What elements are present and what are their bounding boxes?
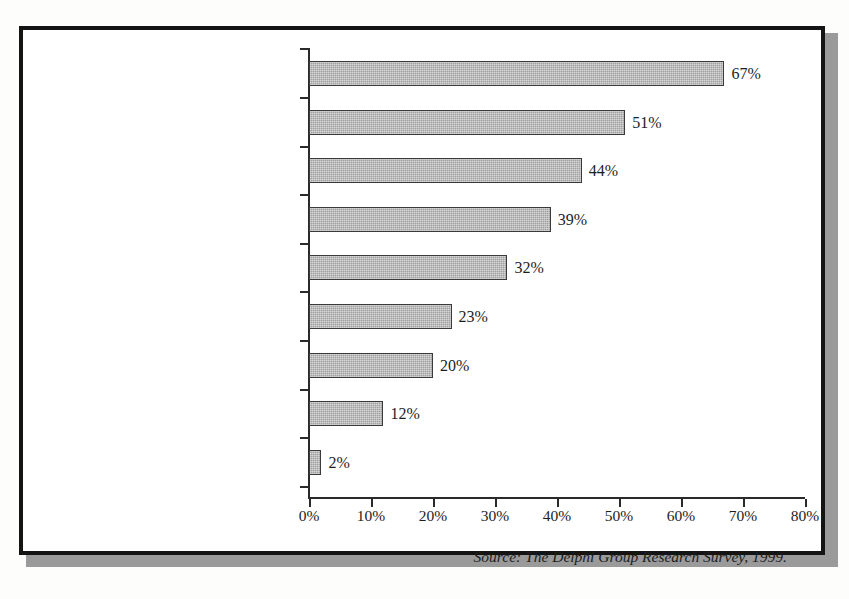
y-axis-tick [300,437,309,439]
y-axis-tick [300,486,309,488]
y-axis-tick [300,340,309,342]
y-axis-tick [300,194,309,196]
bar-value-label: 39% [551,207,587,232]
x-axis-tick [743,499,745,507]
figure-frame: Databases and knowledgebases67%Document … [19,26,825,555]
x-axis-tick-label: 80% [775,507,835,525]
x-axis-tick-label: 50% [589,507,649,525]
bar [309,304,452,329]
bar [309,353,433,378]
bar [309,255,507,280]
bar [309,61,724,86]
x-axis-tick [495,499,497,507]
x-axis-tick [619,499,621,507]
bar [309,207,551,232]
x-axis-tick-label: 30% [465,507,525,525]
bar-value-label: 32% [507,255,543,280]
y-axis-tick [300,389,309,391]
bar-value-label: 44% [582,158,618,183]
y-axis-tick [300,48,309,50]
bar [309,158,582,183]
source-attribution: Source: The Delphi Group Research Survey… [23,548,787,566]
y-axis-tick [300,146,309,148]
bar [309,401,383,426]
y-axis-tick [300,243,309,245]
y-axis-tick [300,291,309,293]
x-axis-tick [371,499,373,507]
y-axis-tick [300,97,309,99]
bar-chart-plot-area: Databases and knowledgebases67%Document … [23,30,821,551]
x-axis-tick [309,499,311,507]
bar-value-label: 12% [383,401,419,426]
x-axis-tick-label: 60% [651,507,711,525]
bar-value-label: 51% [625,110,661,135]
x-axis-tick [433,499,435,507]
x-axis-tick-label: 40% [527,507,587,525]
bar-value-label: 67% [724,61,760,86]
x-axis-tick-label: 70% [713,507,773,525]
bar [309,450,321,475]
x-axis-tick [557,499,559,507]
x-axis-tick-label: 20% [403,507,463,525]
x-axis-tick-label: 0% [279,507,339,525]
bar-value-label: 23% [452,304,488,329]
x-axis-tick-label: 10% [341,507,401,525]
bar-value-label: 2% [321,450,349,475]
x-axis-tick [805,499,807,507]
x-axis-tick [681,499,683,507]
bar-value-label: 20% [433,353,469,378]
bar [309,110,625,135]
